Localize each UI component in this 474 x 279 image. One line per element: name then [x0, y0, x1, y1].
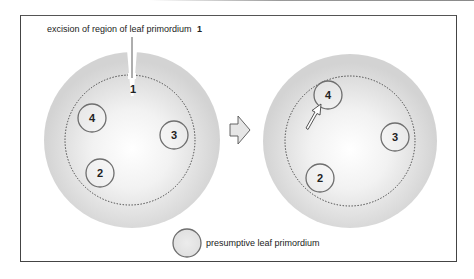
diagram-canvas: 1 4 3 2 excision of region of leaf primo… — [0, 0, 474, 279]
left-primordium-4: 4 — [78, 104, 106, 132]
svg-text:2: 2 — [317, 172, 323, 184]
right-primordium-2: 2 — [306, 164, 334, 192]
left-primordium-3: 3 — [160, 121, 188, 149]
svg-text:2: 2 — [97, 167, 103, 179]
svg-text:4: 4 — [89, 112, 96, 124]
annotation-text: excision of region of leaf primordium 1 — [47, 24, 202, 34]
legend-swatch-icon — [173, 229, 201, 257]
left-primordium-2: 2 — [86, 159, 114, 187]
right-arrow-icon — [230, 116, 250, 144]
right-primordium-3: 3 — [381, 123, 409, 151]
svg-text:4: 4 — [325, 89, 332, 101]
right-meristem: 4 3 2 — [263, 54, 437, 228]
legend-label: presumptive leaf primordium — [206, 238, 320, 248]
right-primordium-4: 4 — [314, 81, 342, 109]
excised-primordium-label: 1 — [130, 83, 136, 95]
legend: presumptive leaf primordium — [173, 229, 320, 257]
svg-text:3: 3 — [171, 129, 177, 141]
svg-text:3: 3 — [392, 131, 398, 143]
right-apex-disc — [263, 54, 437, 228]
